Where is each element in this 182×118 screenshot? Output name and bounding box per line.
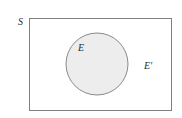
event-set-label: E [77,42,84,53]
event-set-circle [66,33,128,95]
complement-set-label: E' [143,60,153,71]
venn-diagram-figure: S E E' [0,0,182,118]
universal-set-label: S [18,16,23,27]
venn-diagram-canvas: S E E' [0,0,182,118]
